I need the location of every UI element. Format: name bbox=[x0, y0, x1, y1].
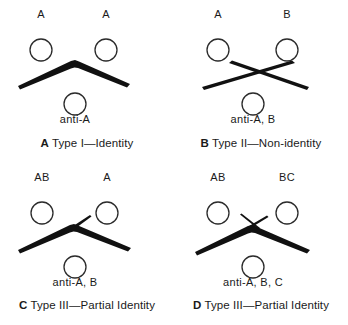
precipitin-arc bbox=[18, 60, 130, 90]
well-label-antiserum: anti-A, B bbox=[231, 113, 276, 125]
panel-d-diagram bbox=[174, 162, 348, 294]
precipitin-arc bbox=[18, 224, 131, 254]
panel-c-caption-letter: C bbox=[19, 299, 27, 311]
well-antiserum bbox=[242, 93, 264, 115]
precipitin-line-left bbox=[202, 61, 295, 91]
well-label-antiserum: anti-A, B, C bbox=[223, 276, 283, 288]
well-antiserum bbox=[242, 256, 264, 278]
well-label-top-left: AB bbox=[210, 171, 225, 183]
well-top-right bbox=[95, 39, 117, 61]
well-label-top-right: A bbox=[103, 171, 111, 183]
well-label-top-right: A bbox=[102, 8, 110, 20]
well-label-top-left: A bbox=[214, 8, 222, 20]
well-label-top-right: BC bbox=[279, 171, 295, 183]
well-top-right bbox=[276, 39, 298, 61]
panel-a: A A anti-A AType I—Identity bbox=[0, 0, 174, 162]
panel-c-caption-text: Type III—Partial Identity bbox=[30, 299, 155, 311]
precipitin-line-right bbox=[229, 61, 309, 91]
panel-c: AB A anti-A, B CType III—Partial Identit… bbox=[0, 162, 174, 325]
panel-a-caption: AType I—Identity bbox=[0, 137, 174, 149]
well-top-left bbox=[31, 202, 53, 224]
well-antiserum bbox=[64, 256, 86, 278]
well-top-right bbox=[276, 202, 298, 224]
well-label-top-left: AB bbox=[34, 171, 49, 183]
panel-b-caption-letter: B bbox=[201, 137, 209, 149]
well-label-antiserum: anti-A bbox=[60, 113, 91, 125]
well-antiserum bbox=[64, 93, 86, 115]
well-top-left bbox=[30, 39, 52, 61]
panel-d: AB BC anti-A, B, C DType III—Partial Ide… bbox=[174, 162, 348, 325]
precipitin-spur bbox=[74, 215, 92, 228]
panel-c-diagram bbox=[0, 162, 174, 294]
panel-b: A B anti-A, B BType II—Non-identity bbox=[174, 0, 348, 162]
panel-b-caption: BType II—Non-identity bbox=[174, 137, 348, 149]
well-label-top-right: B bbox=[283, 8, 291, 20]
panel-a-caption-text: Type I—Identity bbox=[52, 137, 133, 149]
panel-d-caption-text: Type III—Partial Identity bbox=[204, 299, 329, 311]
panel-d-caption: DType III—Partial Identity bbox=[174, 299, 348, 311]
panel-a-caption-letter: A bbox=[41, 137, 49, 149]
well-top-left bbox=[207, 202, 229, 224]
precipitin-arc bbox=[195, 225, 310, 256]
well-top-left bbox=[207, 39, 229, 61]
panel-c-caption: CType III—Partial Identity bbox=[0, 299, 174, 311]
well-top-right bbox=[96, 202, 118, 224]
panel-b-caption-text: Type II—Non-identity bbox=[212, 137, 321, 149]
panel-d-caption-letter: D bbox=[193, 299, 201, 311]
well-label-antiserum: anti-A, B bbox=[53, 276, 98, 288]
well-label-top-left: A bbox=[37, 8, 45, 20]
immunodiffusion-figure: A A anti-A AType I—Identity A B anti-A, … bbox=[0, 0, 348, 325]
panel-d-svg bbox=[174, 162, 348, 294]
panel-c-svg bbox=[0, 162, 174, 294]
